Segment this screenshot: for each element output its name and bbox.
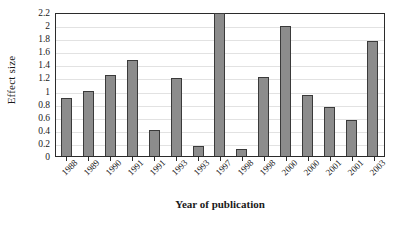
y-axis-tick-label: 1.6 [38, 47, 50, 57]
bar[interactable] [236, 149, 247, 156]
x-axis-tick-label-slot: 2000 [297, 162, 319, 196]
y-axis-tick-label: 1.4 [38, 60, 50, 70]
y-axis-tick-labels: 2.221.81.61.41.210.80.60.40.20 [22, 8, 52, 160]
x-axis-title: Year of publication [55, 198, 385, 210]
x-axis-tick-label-slot: 1997 [209, 162, 231, 196]
bar-slot [209, 14, 231, 156]
bar-slot [318, 14, 340, 156]
bar-slot [231, 14, 253, 156]
effect-size-bar-chart: Effect size 2.221.81.61.41.210.80.60.40.… [0, 0, 401, 225]
bar[interactable] [149, 130, 160, 156]
bar[interactable] [105, 75, 116, 156]
y-axis-tick-label: 1 [45, 87, 50, 97]
x-axis-tick-label-slot: 1991 [143, 162, 165, 196]
bar[interactable] [127, 60, 138, 156]
y-axis-tick-label: 1.8 [38, 34, 50, 44]
y-axis-tick-label: 2 [45, 21, 50, 31]
bar-slot [362, 14, 384, 156]
bar[interactable] [346, 120, 357, 156]
bar-slot [253, 14, 275, 156]
x-axis-tick-label-slot: 1990 [99, 162, 121, 196]
bar-slot [187, 14, 209, 156]
bar-slot [143, 14, 165, 156]
bar[interactable] [214, 13, 225, 156]
plot-area [55, 13, 385, 157]
y-axis-tick-label: 0.8 [38, 100, 50, 110]
bar-slot [165, 14, 187, 156]
bar[interactable] [280, 26, 291, 156]
bar[interactable] [193, 146, 204, 156]
y-axis-tick-label: 0 [45, 152, 50, 162]
x-axis-tick-labels: 1988198919901991199119931993199719981998… [55, 162, 385, 196]
x-axis-tick-label-slot: 2003 [363, 162, 385, 196]
bar-slot [56, 14, 78, 156]
bar-slot [78, 14, 100, 156]
x-axis-tick-label-slot: 1993 [187, 162, 209, 196]
x-axis-tick-label-slot: 1989 [77, 162, 99, 196]
bar[interactable] [83, 91, 94, 156]
y-axis-tick-label: 0.2 [38, 139, 50, 149]
bar-slot [100, 14, 122, 156]
y-axis-title-label: Effect size [5, 56, 17, 105]
bar-slot [122, 14, 144, 156]
bar[interactable] [367, 41, 378, 156]
bar[interactable] [324, 107, 335, 156]
x-axis-tick-label-slot: 1988 [55, 162, 77, 196]
x-axis-tick-label-slot: 1993 [165, 162, 187, 196]
x-axis-tick-label-slot: 2000 [275, 162, 297, 196]
x-axis-tick-label-slot: 1998 [231, 162, 253, 196]
y-axis-title: Effect size [0, 0, 22, 160]
x-axis-tick-label-slot: 2001 [319, 162, 341, 196]
bar[interactable] [302, 95, 313, 156]
y-axis-tick-label: 1.2 [38, 73, 50, 83]
x-axis-tick-label-slot: 2001 [341, 162, 363, 196]
bar[interactable] [258, 77, 269, 156]
y-axis-tick-label: 0.4 [38, 126, 50, 136]
bar-slot [340, 14, 362, 156]
bar-slot [296, 14, 318, 156]
x-axis-tick-label-slot: 1998 [253, 162, 275, 196]
bar-slot [275, 14, 297, 156]
bar[interactable] [61, 98, 72, 156]
y-axis-tick-label: 0.6 [38, 113, 50, 123]
bars-layer [56, 14, 384, 156]
x-axis-tick-label-slot: 1991 [121, 162, 143, 196]
bar[interactable] [171, 78, 182, 156]
y-axis-tick-label: 2.2 [38, 8, 50, 18]
